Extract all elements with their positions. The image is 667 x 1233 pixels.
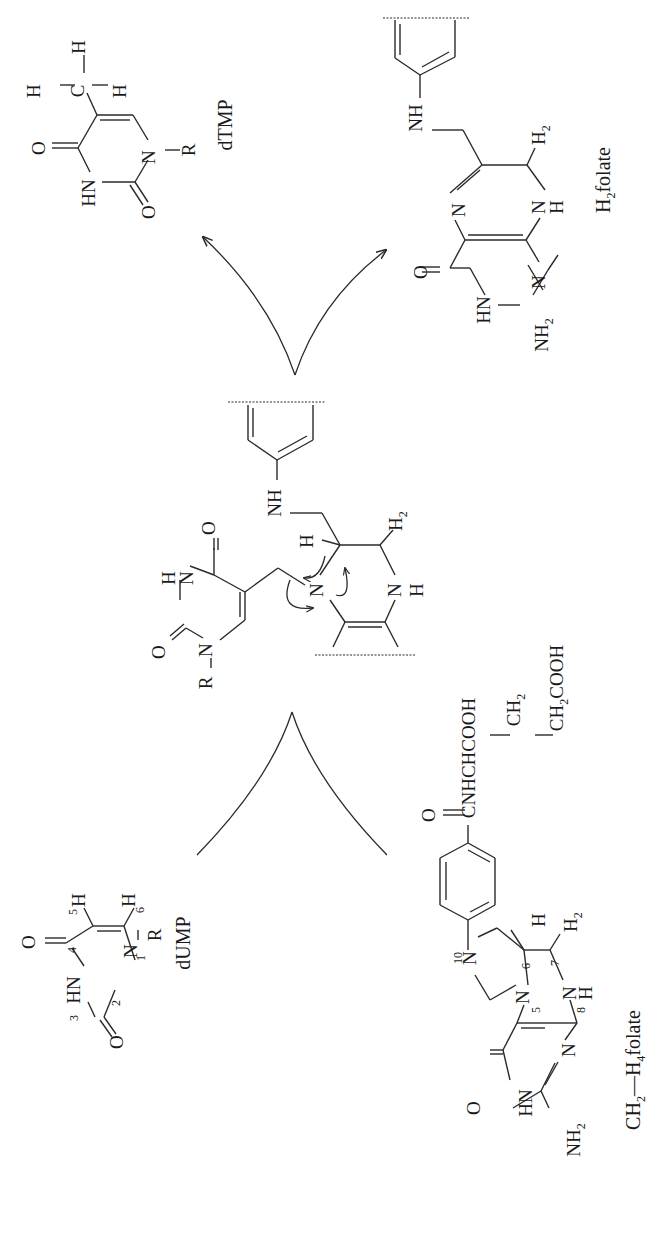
svg-text:6: 6 (519, 963, 533, 969)
svg-text:O: O (148, 645, 169, 659)
dump-structure: O HN N O H H R 1 2 3 4 5 6 dUMP (18, 893, 194, 1049)
svg-text:NH: NH (405, 104, 426, 132)
thf-o4: O (463, 1101, 484, 1115)
svg-text:H: H (23, 84, 44, 98)
svg-text:H: H (296, 534, 317, 548)
svg-text:CH2COOH: CH2COOH (546, 645, 571, 732)
svg-text:H2: H2 (528, 125, 553, 145)
svg-text:R: R (178, 143, 199, 156)
dump-r: R (144, 928, 165, 941)
dump-o4: O (18, 935, 39, 949)
svg-text:H: H (546, 200, 567, 214)
svg-text:NH2: NH2 (563, 1123, 588, 1156)
svg-text:H: H (406, 583, 427, 597)
methylene-thf-label: CH2—H4folate (622, 1010, 648, 1130)
reaction-diagram: O HN N O H H R 1 2 3 4 5 6 dUMP (0, 0, 667, 1233)
intermediate-structure: O H N O N R N H NH H2 N H (148, 402, 427, 689)
svg-text:R: R (195, 676, 216, 689)
svg-text:N: N (528, 275, 549, 289)
methylene-thf-structure: O HN N N N N NH2 H H H2 O CNHCHCOOH CH2 … (418, 645, 648, 1157)
svg-text:N: N (195, 643, 216, 657)
svg-text:NH: NH (264, 489, 285, 517)
svg-text:6: 6 (133, 907, 147, 913)
svg-text:H2: H2 (385, 511, 410, 531)
svg-text:2: 2 (109, 1000, 123, 1006)
svg-text:5: 5 (66, 909, 80, 915)
dump-h6: H (118, 893, 139, 907)
svg-text:N: N (384, 583, 405, 597)
svg-text:HN: HN (473, 296, 494, 324)
dump-h5: H (68, 893, 89, 907)
svg-text:1: 1 (134, 955, 148, 961)
svg-text:HN: HN (78, 179, 99, 207)
svg-text:O: O (198, 521, 219, 535)
svg-text:O: O (138, 205, 159, 219)
product-split-arrows (203, 237, 386, 375)
thf-hn3: HN (515, 1089, 536, 1117)
svg-text:N: N (138, 150, 159, 164)
thf-h6: H (528, 913, 549, 927)
dtmp-structure: C H H H O HN N O R dTMP (23, 40, 236, 219)
dtmp-label: dTMP (214, 99, 236, 150)
svg-text:NH2: NH2 (531, 318, 556, 351)
dump-label: dUMP (172, 916, 194, 969)
dihydrofolate-label: H2folate (592, 147, 618, 213)
thf-n1: N (558, 1043, 579, 1057)
svg-text:8: 8 (574, 1007, 588, 1013)
svg-text:H: H (68, 40, 89, 54)
svg-text:N: N (176, 571, 197, 585)
svg-text:4: 4 (65, 947, 79, 953)
svg-text:5: 5 (529, 1007, 543, 1013)
thf-h8: H (575, 986, 596, 1000)
svg-text:7: 7 (548, 960, 562, 966)
dihydrofolate-structure: O HN N N N H NH H2 NH2 H2folate (383, 18, 618, 352)
dump-hn3: HN (63, 976, 84, 1004)
dump-o2: O (106, 1035, 127, 1049)
svg-text:H2: H2 (560, 912, 585, 932)
svg-text:N: N (448, 203, 469, 217)
svg-text:C: C (67, 85, 88, 98)
reactant-merge-arcs (197, 712, 387, 855)
thf-n5: N (512, 990, 533, 1004)
svg-text:H: H (109, 84, 130, 98)
svg-text:O: O (28, 141, 49, 155)
svg-text:N: N (306, 583, 327, 597)
svg-text:CH2: CH2 (503, 694, 528, 726)
svg-text:O: O (410, 265, 431, 279)
svg-text:10: 10 (451, 952, 465, 964)
amide-o: O (418, 808, 439, 822)
amide-chain: CNHCHCOOH (458, 698, 479, 819)
svg-text:3: 3 (67, 1015, 81, 1021)
